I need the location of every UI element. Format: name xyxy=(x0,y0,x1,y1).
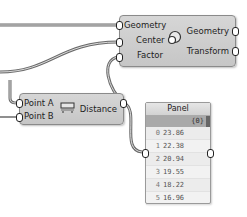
output-geometry[interactable]: Geometry xyxy=(187,26,229,36)
output-grip-geometry[interactable] xyxy=(232,27,239,36)
panel-output-grip[interactable] xyxy=(207,149,214,158)
input-geometry[interactable]: Geometry xyxy=(124,20,166,30)
output-grip-distance[interactable] xyxy=(120,99,127,108)
input-grip-point-a[interactable] xyxy=(16,99,23,108)
list-item: 220.94 xyxy=(146,153,210,166)
input-center[interactable]: Center xyxy=(136,35,165,45)
input-factor[interactable]: Factor xyxy=(137,50,163,60)
panel-scrollbar[interactable] xyxy=(206,116,210,127)
list-item: 319.55 xyxy=(146,166,210,179)
distance-component[interactable]: Point A Point B Distance xyxy=(19,93,124,125)
output-grip-transform[interactable] xyxy=(232,47,239,56)
output-transform[interactable]: Transform xyxy=(187,46,229,56)
output-distance[interactable]: Distance xyxy=(80,104,117,114)
panel-path-label: {0} xyxy=(191,117,204,125)
input-grip-point-b[interactable] xyxy=(16,113,23,122)
panel-input-grip[interactable] xyxy=(142,149,149,158)
input-grip-center[interactable] xyxy=(116,38,123,47)
list-item: 516.96 xyxy=(146,192,210,205)
panel[interactable]: Panel {0} 023.86 122.38 220.94 319.55 41… xyxy=(145,102,211,204)
distance-icon xyxy=(60,102,76,114)
input-grip-factor[interactable] xyxy=(116,53,123,62)
scale-icon xyxy=(166,30,182,46)
input-point-b[interactable]: Point B xyxy=(24,111,54,121)
panel-list: 023.86 122.38 220.94 319.55 418.22 516.9… xyxy=(146,127,210,205)
list-item: 418.22 xyxy=(146,179,210,192)
list-item: 023.86 xyxy=(146,127,210,140)
panel-path: {0} xyxy=(146,116,210,127)
panel-title: Panel xyxy=(146,103,210,116)
wire-distance-to-panel xyxy=(124,103,142,152)
input-grip-geometry[interactable] xyxy=(116,21,123,30)
wire-center-input xyxy=(0,42,118,72)
list-item: 122.38 xyxy=(146,140,210,153)
grasshopper-canvas[interactable]: Geometry Center Factor Geometry Transfor… xyxy=(0,0,247,217)
scale-component[interactable]: Geometry Center Factor Geometry Transfor… xyxy=(119,15,236,67)
input-point-a[interactable]: Point A xyxy=(24,98,54,108)
